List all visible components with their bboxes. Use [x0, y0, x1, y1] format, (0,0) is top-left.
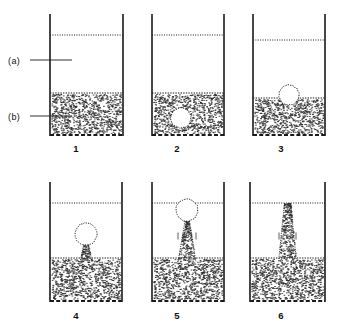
bed-stipple-6	[252, 260, 325, 300]
bed-stipple-5	[154, 260, 224, 300]
panel-number-6: 6	[271, 310, 291, 321]
panel-number-5: 5	[167, 310, 187, 321]
figure-canvas	[0, 0, 343, 326]
particle-jet-stem-5	[178, 221, 196, 262]
granular-bed-1	[52, 95, 123, 134]
callout-b-label: (b)	[8, 112, 20, 122]
stem-stipple-6	[280, 203, 297, 262]
bubble-3	[279, 85, 300, 106]
callout-a-label: (a)	[8, 56, 20, 66]
granular-bed-6	[252, 260, 325, 300]
panel-6	[250, 182, 325, 302]
panel-2	[152, 14, 224, 136]
bubble-2	[171, 108, 192, 129]
granular-bed-5	[154, 260, 224, 300]
stem-stipple-5	[179, 221, 196, 262]
panel-number-2: 2	[167, 143, 187, 154]
bubble-sequence-figure: (a)(b)123456	[0, 0, 343, 326]
panel-number-3: 3	[271, 143, 291, 154]
panel-1	[50, 14, 123, 136]
panel-5	[152, 182, 224, 302]
particle-jet-stem-4	[80, 243, 92, 262]
particle-jet-stem-6	[279, 203, 297, 262]
bubble-5	[176, 199, 198, 222]
granular-bed-4	[52, 260, 122, 300]
panel-number-1: 1	[66, 143, 86, 154]
panel-number-4: 4	[66, 310, 86, 321]
bubble-4	[75, 223, 97, 246]
bed-stipple-4	[52, 260, 122, 300]
panel-3	[253, 14, 325, 136]
bed-stipple-1	[52, 95, 123, 134]
panel-4	[50, 182, 122, 302]
